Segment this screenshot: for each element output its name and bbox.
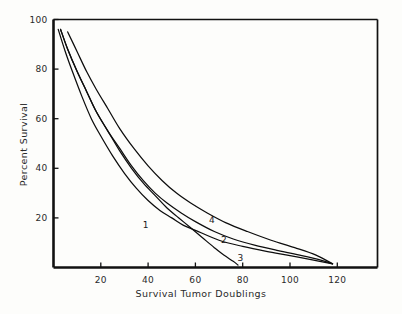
curve-1 — [58, 29, 332, 263]
plot-frame — [54, 20, 378, 268]
x-axis-title: Survival Tumor Doublings — [0, 288, 402, 299]
data-curves — [58, 29, 332, 265]
x-tick-label: 60 — [189, 275, 201, 285]
y-tick-label: 40 — [16, 163, 48, 173]
x-tick-label: 80 — [237, 275, 249, 285]
y-tick-label: 100 — [16, 15, 48, 25]
y-tick-label: 20 — [16, 213, 48, 223]
curve-label-2: 2 — [221, 235, 227, 245]
y-tick-label: 80 — [16, 64, 48, 74]
curve-label-1: 1 — [143, 220, 149, 230]
plot-canvas — [0, 0, 402, 314]
x-tick-label: 120 — [328, 275, 346, 285]
curve-label-4: 4 — [209, 215, 215, 225]
curve-label-3: 3 — [237, 253, 243, 263]
x-tick-label: 20 — [95, 275, 107, 285]
x-tick-label: 100 — [281, 275, 299, 285]
x-tick-label: 40 — [142, 275, 154, 285]
y-tick-label: 60 — [16, 114, 48, 124]
curve-2 — [61, 29, 333, 263]
y-axis-title: Percent Survival — [18, 85, 29, 205]
chart-figure: Survival Tumor Doublings Percent Surviva… — [0, 0, 402, 314]
